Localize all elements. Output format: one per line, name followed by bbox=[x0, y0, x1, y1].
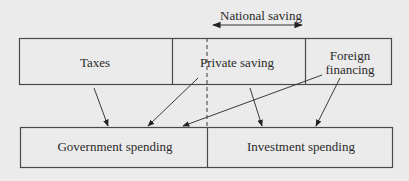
arrow-foreign-financing-to-government bbox=[183, 75, 322, 126]
foreign-financing-label-line2: financing bbox=[320, 62, 380, 77]
private-saving-label: Private saving bbox=[192, 55, 282, 70]
investment-spending-label: Investment spending bbox=[236, 139, 366, 154]
arrow-private-saving-to-government bbox=[148, 78, 198, 126]
foreign-financing-label-line1: Foreign bbox=[320, 48, 380, 63]
arrow-taxes-to-government bbox=[94, 88, 108, 126]
national-saving-label: National saving bbox=[218, 8, 304, 23]
government-spending-label: Government spending bbox=[50, 139, 180, 154]
taxes-label: Taxes bbox=[60, 55, 130, 70]
arrow-foreign-financing-to-investment bbox=[316, 78, 340, 126]
arrow-private-saving-to-investment bbox=[250, 88, 262, 126]
